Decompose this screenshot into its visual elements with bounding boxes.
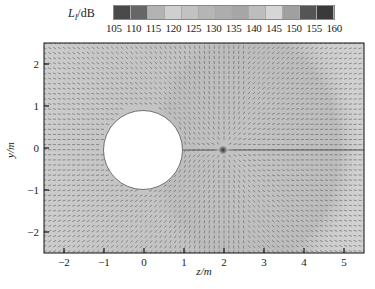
x-axis-label: z/m	[195, 265, 211, 277]
y-tick-label: 1	[34, 100, 40, 112]
y-tick-label: −1	[27, 184, 39, 196]
x-tick-label: 5	[341, 256, 347, 268]
scatterer-circle	[104, 111, 183, 190]
x-tick-label: 1	[181, 256, 187, 268]
field-area	[43, 10, 366, 289]
vector-field-plot: −2−1012345 210−1−2 z/m y/m	[0, 0, 375, 289]
x-tick-label: −2	[58, 256, 70, 268]
x-tick-label: −1	[98, 256, 110, 268]
x-tick-label: 4	[301, 256, 307, 268]
x-tick-label: 0	[141, 256, 147, 268]
x-tick-label: 2	[221, 256, 227, 268]
y-tick-label: 0	[34, 142, 40, 154]
y-tick-label: 2	[34, 58, 40, 70]
y-tick-label: −2	[27, 226, 39, 238]
x-tick-label: 3	[261, 256, 267, 268]
source-point-icon	[216, 143, 230, 157]
y-axis-label: y/m	[4, 142, 16, 159]
